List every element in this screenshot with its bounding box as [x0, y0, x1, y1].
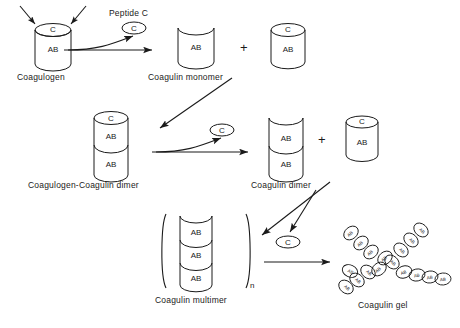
svg-text:AB: AB	[343, 284, 351, 292]
glyph-c-coagulogen-right: C	[285, 25, 291, 34]
arrow-peptide-release-2	[156, 138, 221, 152]
molecule-coagulin-dimer	[269, 118, 303, 182]
label-coagulogen: Coagulogen	[17, 72, 65, 82]
glyph-ab-dimer-2: AB	[106, 160, 117, 169]
glyph-ab-multimer-3: AB	[191, 274, 202, 283]
molecule-coagulin-gel	[336, 220, 451, 297]
svg-text:AB: AB	[413, 272, 420, 278]
svg-text:AB: AB	[346, 230, 354, 238]
svg-text:AB: AB	[400, 269, 407, 276]
svg-text:AB: AB	[356, 240, 364, 248]
glyph-c-coagulogen: C	[50, 25, 56, 34]
svg-text:AB: AB	[366, 249, 374, 257]
svg-text:AB: AB	[347, 268, 354, 275]
glyph-ab-monomer: AB	[191, 43, 202, 52]
glyph-ab-coagulin-dimer-1: AB	[281, 134, 292, 143]
svg-text:AB: AB	[427, 275, 434, 281]
pathway-diagram: C AB C AB C AB C AB AB C AB AB C AB AB A…	[0, 0, 460, 328]
inbound-arrow-left	[20, 6, 35, 24]
svg-text:AB: AB	[374, 266, 382, 274]
link-coagulogen-to-multimer	[290, 190, 316, 232]
label-coagulogen-coagulin-dimer: Coagulogen-Coagulin dimer	[28, 180, 139, 190]
label-coagulin-monomer: Coagulin monomer	[148, 72, 223, 82]
label-coagulin-multimer: Coagulin multimer	[155, 295, 227, 305]
glyph-ab-multimer-1: AB	[191, 228, 202, 237]
glyph-c-peptide-3: C	[285, 238, 291, 247]
label-peptide-c: Peptide C	[109, 8, 148, 18]
plus-sign-row1: +	[240, 40, 248, 55]
svg-text:AB: AB	[354, 277, 362, 285]
glyph-ab-dimer-1: AB	[106, 132, 117, 141]
svg-text:AB: AB	[398, 247, 406, 255]
svg-text:AB: AB	[418, 227, 426, 235]
svg-text:AB: AB	[389, 259, 397, 267]
glyph-c-peptide-1: C	[131, 24, 137, 33]
glyph-ab-coagulogen: AB	[48, 45, 59, 54]
arrow-peptide-release-1	[68, 36, 133, 50]
glyph-ab-multimer-2: AB	[191, 251, 202, 260]
glyph-ab-coagulin-dimer-2: AB	[281, 160, 292, 169]
inbound-arrow-right	[71, 6, 86, 24]
link-row1-row2	[160, 78, 232, 128]
glyph-c-dimer-cap: C	[108, 114, 114, 123]
glyph-ab-coagulogen-row2: AB	[357, 138, 368, 147]
glyph-c-peptide-2: C	[219, 126, 225, 135]
glyph-c-coagulogen-row2: C	[359, 117, 365, 126]
bracket-left	[162, 214, 166, 288]
glyph-ab-coagulogen-right: AB	[283, 45, 294, 54]
svg-text:AB: AB	[408, 237, 416, 245]
label-coagulin-dimer: Coagulin dimer	[251, 180, 311, 190]
plus-sign-row2: +	[318, 132, 326, 147]
subscript-n: n	[250, 281, 254, 290]
svg-text:AB: AB	[440, 277, 446, 282]
label-coagulin-gel: Coagulin gel	[358, 300, 408, 310]
gel-glyph-layer: AB AB AB AB AB AB AB AB AB AB AB AB AB A…	[343, 227, 446, 292]
molecule-glyph-layer: C AB C AB C AB C AB AB C AB AB C AB AB A…	[48, 24, 368, 283]
bracket-right	[246, 214, 250, 288]
